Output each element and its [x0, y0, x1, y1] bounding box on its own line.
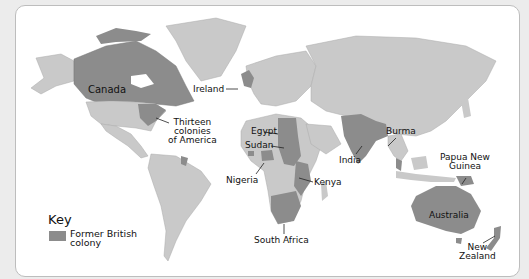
label-thirteen-line3: of America — [168, 136, 217, 145]
label-burma: Burma — [386, 127, 416, 136]
nigeria — [261, 150, 274, 161]
label-nigeria: Nigeria — [226, 176, 258, 185]
key-label-line2: colony — [70, 238, 137, 247]
key-swatch-former-british-colony — [49, 231, 66, 241]
canada — [74, 41, 194, 106]
label-papua-new-guinea: Papua New Guinea — [440, 153, 490, 171]
asia — [306, 36, 496, 136]
indonesia — [396, 171, 456, 182]
label-egypt: Egypt — [251, 127, 277, 136]
arctic-islands — [96, 28, 151, 44]
label-kenya: Kenya — [314, 178, 342, 187]
papua-new-guinea — [456, 176, 474, 186]
europe — [246, 51, 316, 106]
label-south-africa: South Africa — [254, 236, 309, 245]
south-africa — [271, 191, 301, 224]
key-title: Key — [48, 212, 72, 227]
label-new-zealand: New Zealand — [459, 243, 496, 261]
label-canada: Canada — [88, 85, 126, 94]
label-nz-line2: Zealand — [459, 252, 496, 261]
south-america — [148, 154, 211, 261]
label-australia: Australia — [429, 211, 469, 220]
label-png-line2: Guinea — [440, 162, 490, 171]
southeast-asia — [388, 134, 408, 161]
alaska — [31, 54, 74, 94]
japan — [461, 98, 471, 118]
label-india: India — [339, 156, 361, 165]
label-sudan: Sudan — [245, 141, 273, 150]
key-label: Former British colony — [70, 229, 137, 247]
label-ireland: Ireland — [193, 85, 224, 94]
label-thirteen-colonies: Thirteen colonies of America — [168, 118, 217, 145]
map-panel: Canada Ireland Thirteen colonies of Amer… — [15, 5, 520, 277]
